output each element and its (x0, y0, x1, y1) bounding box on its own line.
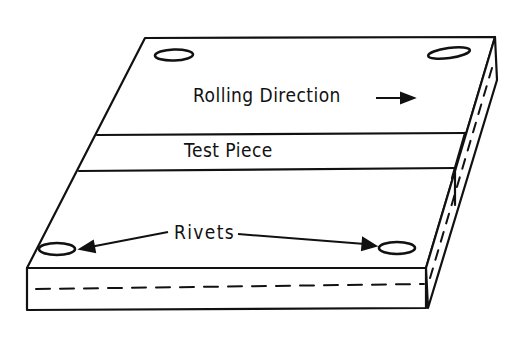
plate-drawing (0, 0, 513, 343)
rivets-label: Rivets (174, 221, 235, 243)
test-piece-label: Test Piece (184, 139, 273, 161)
rolling-direction-label: Rolling Direction (193, 84, 341, 106)
